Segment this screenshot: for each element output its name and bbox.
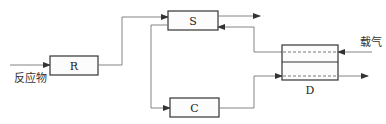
r-to-s-arrow bbox=[98, 17, 168, 65]
node-d: D bbox=[282, 45, 338, 97]
node-r: R bbox=[50, 56, 98, 75]
d-to-s-arrow bbox=[218, 27, 282, 52]
node-c-label: C bbox=[190, 102, 198, 115]
node-c: C bbox=[170, 98, 219, 117]
c-to-d-arrow bbox=[219, 76, 282, 108]
carrier-gas-label: 载气 bbox=[360, 35, 382, 49]
s-to-c-arrow bbox=[151, 25, 170, 108]
node-r-label: R bbox=[70, 60, 79, 73]
node-s: S bbox=[168, 11, 218, 30]
node-s-label: S bbox=[189, 15, 197, 28]
process-flow-diagram: 反应物 R S C D 载气 bbox=[0, 0, 386, 124]
reactant-label: 反应物 bbox=[14, 71, 47, 85]
node-d-label: D bbox=[306, 84, 315, 97]
